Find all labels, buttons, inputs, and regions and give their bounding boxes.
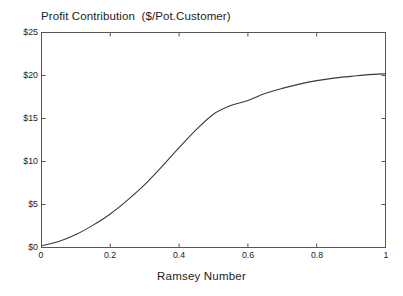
plot-frame	[42, 33, 386, 248]
chart-figure: Profit Contribution ($/Pot.Customer) $0 …	[0, 0, 403, 296]
plot-area	[0, 0, 403, 296]
tick-marks	[42, 33, 386, 248]
data-series-line	[42, 74, 386, 246]
x-axis-label: Ramsey Number	[0, 270, 403, 282]
